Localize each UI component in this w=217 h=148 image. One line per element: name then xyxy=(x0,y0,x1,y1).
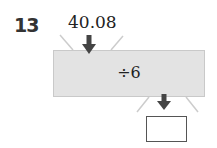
input-arrow-icon xyxy=(82,35,96,54)
output-arrow-icon xyxy=(157,94,171,110)
answer-box[interactable] xyxy=(146,116,187,142)
